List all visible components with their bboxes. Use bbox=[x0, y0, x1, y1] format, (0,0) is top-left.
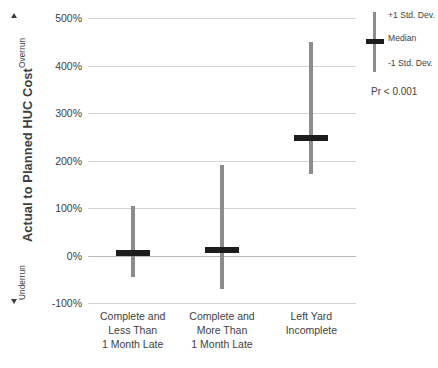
y-axis-tick-label: 500% bbox=[55, 12, 82, 24]
gridline: 300% bbox=[88, 113, 356, 114]
median-marker bbox=[116, 250, 150, 256]
y-axis-tick-label: -100% bbox=[52, 297, 82, 309]
p-value-annotation: Pr < 0.001 bbox=[371, 86, 417, 97]
x-axis-category-line: 1 Month Late bbox=[189, 337, 254, 351]
x-axis-category-line: 1 Month Late bbox=[100, 337, 165, 351]
std-dev-whisker bbox=[220, 165, 224, 289]
median-marker bbox=[205, 247, 239, 253]
y-axis-tick-label: 100% bbox=[55, 202, 82, 214]
x-axis-category-line: Complete and bbox=[100, 309, 165, 323]
y-axis-title: Actual to Planned HUC Cost bbox=[20, 68, 35, 242]
gridline: 200% bbox=[88, 161, 356, 162]
x-axis-category-line: More Than bbox=[189, 323, 254, 337]
x-axis-category-line: Left Yard bbox=[286, 309, 337, 323]
y-axis-tick-label: 0% bbox=[67, 250, 82, 262]
gridline: 400% bbox=[88, 66, 356, 67]
gridline: -100% bbox=[88, 303, 356, 304]
x-axis-category-label: Complete andMore Than1 Month Late bbox=[189, 309, 254, 351]
y-axis-tick-label: 400% bbox=[55, 60, 82, 72]
legend-entry-upper-sd: +1 Std. Dev. bbox=[388, 10, 435, 20]
std-dev-whisker bbox=[131, 206, 135, 277]
y-axis-tick-label: 200% bbox=[55, 155, 82, 167]
median-marker bbox=[294, 135, 328, 141]
overrun-arrow-icon bbox=[11, 13, 17, 18]
gridline: 500% bbox=[88, 18, 356, 19]
legend-median-bar bbox=[366, 39, 384, 44]
x-axis-category-line: Incomplete bbox=[286, 323, 337, 337]
plot-area: 500%400%300%200%100%0%-100% bbox=[88, 18, 356, 303]
std-dev-whisker bbox=[309, 42, 313, 174]
x-axis-category-label: Left YardIncomplete bbox=[286, 309, 337, 337]
legend-marker-icon bbox=[365, 12, 385, 72]
x-axis-category-label: Complete andLess Than1 Month Late bbox=[100, 309, 165, 351]
x-axis-category-line: Less Than bbox=[100, 323, 165, 337]
x-axis-labels: Complete andLess Than1 Month LateComplet… bbox=[88, 309, 356, 361]
legend-entry-lower-sd: -1 Std. Dev. bbox=[388, 58, 433, 68]
underrun-arrow-icon bbox=[11, 299, 17, 304]
chart-container: Actual to Planned HUC Cost Overrun Under… bbox=[0, 0, 438, 368]
overrun-label: Overrun bbox=[18, 38, 27, 68]
y-axis-tick-label: 300% bbox=[55, 107, 82, 119]
x-axis-category-line: Complete and bbox=[189, 309, 254, 323]
underrun-label: Underrun bbox=[18, 265, 27, 300]
legend-entry-median: Median bbox=[388, 33, 416, 43]
